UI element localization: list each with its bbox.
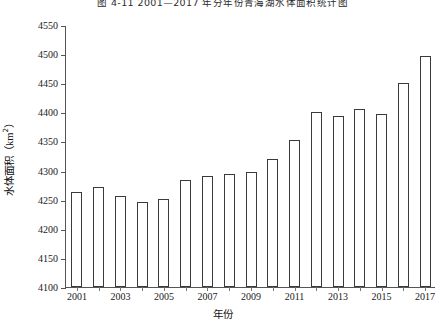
y-tick-mark	[61, 288, 66, 289]
y-axis-unit-exponent: 2	[1, 128, 10, 133]
y-tick-label: 4500	[38, 50, 58, 60]
x-tick-mark	[99, 287, 100, 291]
figure-title: 图 4-11 2001—2017 年分年份青海湖水体面积统计图	[0, 0, 445, 9]
bar	[333, 116, 344, 287]
y-tick-label: 4350	[38, 137, 58, 147]
x-tick-mark	[316, 287, 317, 291]
y-tick-label: 4200	[38, 225, 58, 235]
bar	[224, 174, 235, 287]
y-tick-mark	[61, 55, 66, 56]
x-tick-label: 2003	[110, 292, 130, 302]
bar	[137, 202, 148, 287]
y-tick-label: 4300	[38, 167, 58, 177]
x-tick-mark	[186, 287, 187, 291]
y-tick-mark	[61, 142, 66, 143]
bar	[267, 159, 278, 287]
y-tick-mark	[61, 259, 66, 260]
y-tick-label: 4550	[38, 21, 58, 31]
bar	[180, 180, 191, 287]
x-tick-mark	[229, 287, 230, 291]
y-tick-label: 4400	[38, 108, 58, 118]
y-tick-mark	[61, 172, 66, 173]
bar	[202, 176, 213, 287]
plot-area: 4100415042004250430043504400445045004550…	[65, 26, 435, 288]
x-tick-label: 2015	[372, 292, 392, 302]
bar	[115, 196, 126, 287]
y-tick-label: 4100	[38, 283, 58, 293]
y-axis-title: 水体面积（km2）	[1, 118, 16, 196]
bar	[398, 83, 409, 287]
y-tick-mark	[61, 84, 66, 85]
x-tick-mark	[142, 287, 143, 291]
figure-container: 图 4-11 2001—2017 年分年份青海湖水体面积统计图 41004150…	[0, 0, 445, 335]
x-axis-title: 年份	[0, 306, 445, 321]
x-tick-label: 2009	[241, 292, 261, 302]
bar	[93, 187, 104, 287]
x-tick-label: 2013	[328, 292, 348, 302]
x-tick-mark	[403, 287, 404, 291]
y-tick-mark	[61, 230, 66, 231]
y-axis-unit-close: ）	[4, 118, 15, 128]
y-tick-mark	[61, 26, 66, 27]
bar	[246, 172, 257, 287]
bar	[289, 140, 300, 287]
y-tick-label: 4450	[38, 79, 58, 89]
y-tick-mark	[61, 201, 66, 202]
x-tick-label: 2007	[197, 292, 217, 302]
x-tick-mark	[273, 287, 274, 291]
x-tick-label: 2011	[285, 292, 305, 302]
x-tick-mark	[360, 287, 361, 291]
bar	[71, 192, 82, 287]
bar	[158, 199, 169, 287]
x-tick-label: 2017	[415, 292, 435, 302]
y-tick-label: 4150	[38, 254, 58, 264]
y-axis-title-text: 水体面积	[3, 156, 15, 196]
x-tick-label: 2001	[67, 292, 87, 302]
bar	[354, 109, 365, 287]
y-tick-mark	[61, 113, 66, 114]
y-tick-label: 4250	[38, 196, 58, 206]
x-tick-label: 2005	[154, 292, 174, 302]
bar	[311, 112, 322, 287]
bar	[420, 56, 431, 287]
y-axis-unit-open: （km	[4, 133, 15, 156]
bar	[376, 114, 387, 287]
